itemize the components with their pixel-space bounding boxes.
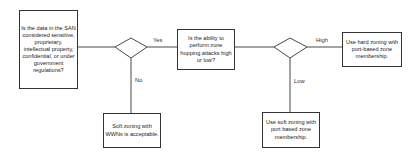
result-soft-zoning-port-text: Use soft zoning with port based zone mem… [264, 119, 318, 140]
question-sensitive-data-box: Is the data in the SAN considered sensit… [19, 10, 78, 89]
edge-label-yes: Yes [153, 37, 162, 43]
result-hard-zoning-box: Use hard zoning with port-based zone mem… [342, 32, 402, 67]
question-zone-hopping-box: Is the ability to perform zone hopping a… [177, 29, 235, 70]
edge-label-no: No [135, 77, 142, 83]
result-soft-zoning-port-box: Use soft zoning with port based zone mem… [262, 112, 320, 148]
edge-label-low: Low [294, 78, 305, 84]
result-soft-zoning-wwn-text: Soft zoning with WWNs is acceptable. [105, 123, 159, 137]
question-sensitive-data-text: Is the data in the SAN considered sensit… [21, 25, 76, 75]
result-soft-zoning-wwn-box: Soft zoning with WWNs is acceptable. [103, 113, 161, 148]
result-hard-zoning-text: Use hard zoning with port-based zone mem… [344, 39, 400, 60]
question-zone-hopping-text: Is the ability to perform zone hopping a… [179, 35, 233, 63]
decision-diamond-1 [115, 38, 147, 58]
edge-label-high: High [316, 37, 328, 43]
decision-diamond-2 [274, 38, 307, 58]
